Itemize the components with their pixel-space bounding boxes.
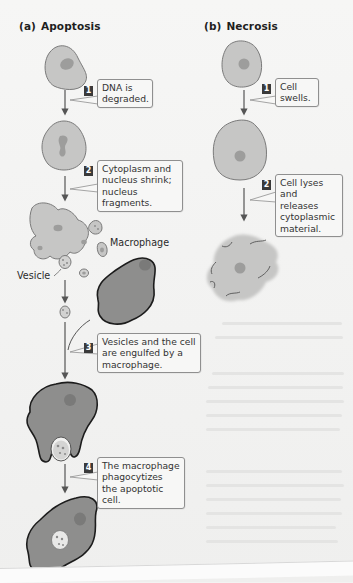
macrophage-label: Macrophage	[110, 237, 169, 248]
vesicle-label: Vesicle	[17, 270, 50, 281]
apoptosis-vesicle-small	[60, 306, 70, 318]
callout-b2: Cell lyses and releases cytoplasmic mate…	[275, 174, 343, 237]
callout-a3-text: Vesicles and the cell are engulfed by a …	[102, 336, 196, 370]
callout-a4-text: The macrophage phagocytizes the apoptoti…	[102, 460, 180, 505]
necrosis-cell-swollen	[213, 120, 266, 180]
step-badge-a2: 2	[84, 166, 93, 176]
callout-a1-text: DNA is degraded.	[102, 82, 149, 104]
apoptosis-cell-normal	[45, 46, 86, 90]
callout-a2: Cytoplasm and nucleus shrink; nucleus fr…	[97, 160, 183, 212]
step-badge-b1: 1	[262, 84, 271, 94]
callout-b1-text: Cell swells.	[280, 81, 311, 103]
macrophage-free	[97, 258, 155, 324]
step-badge-a3: 3	[84, 343, 93, 353]
macrophage-engulfing	[27, 382, 97, 462]
callout-a1: DNA is degraded.	[97, 79, 153, 108]
macrophage-phagocytized	[27, 497, 97, 574]
apoptosis-cell-fragmented	[30, 203, 107, 277]
necrosis-cell-normal	[222, 41, 262, 87]
callout-b1: Cell swells.	[275, 78, 319, 107]
callout-a4: The macrophage phagocytizes the apoptoti…	[97, 457, 185, 509]
callout-a2-text: Cytoplasm and nucleus shrink; nucleus fr…	[102, 163, 172, 208]
callout-a3: Vesicles and the cell are engulfed by a …	[97, 333, 201, 373]
step-badge-a4: 4	[84, 463, 93, 473]
callout-b2-text: Cell lyses and releases cytoplasmic mate…	[280, 177, 335, 234]
necrosis-cell-lysed	[207, 234, 278, 301]
apoptosis-cell-dna-degraded	[42, 121, 86, 170]
step-badge-a1: 1	[84, 86, 93, 96]
step-badge-b2: 2	[262, 180, 271, 190]
